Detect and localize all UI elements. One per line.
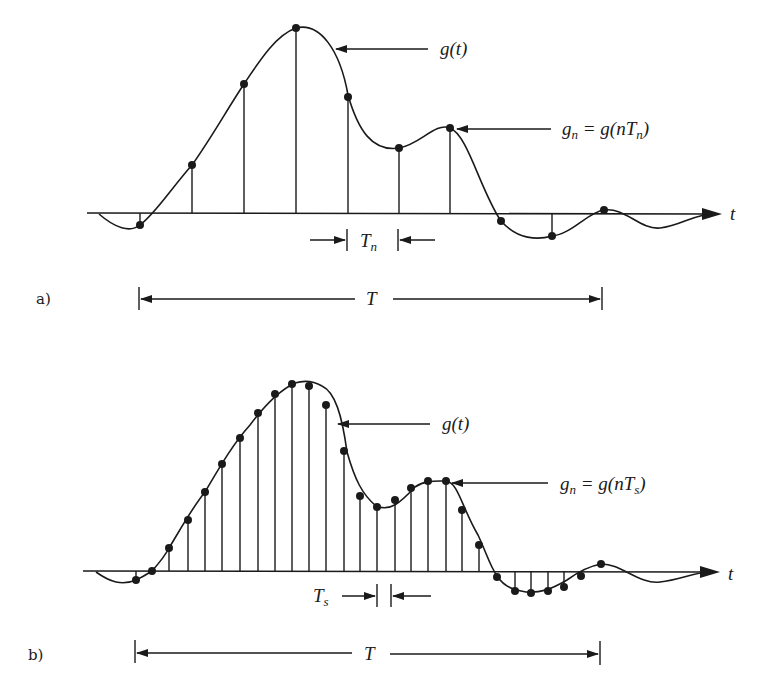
panel-a: t g(t) [36,24,736,310]
curve-label: g(t) [442,413,469,435]
sample-stems [136,384,564,593]
axis-label-t: t [728,563,734,584]
sample-label: gn = g(nTs) [560,473,646,497]
sampling-diagram: t g(t) [0,0,763,692]
sampling-interval-marker: Tn [310,229,435,254]
svg-text:T: T [364,643,376,664]
sample-dots [132,380,605,597]
duration-marker: T [139,287,602,310]
sample-stems [140,28,552,236]
svg-text:Tn: Tn [360,230,377,254]
sample-dots [136,24,608,240]
duration-marker: T [135,640,600,665]
time-axis [87,213,712,214]
panel-label-b: b) [28,646,43,664]
panel-label-a: a) [36,290,51,308]
axis-label-t: t [730,203,736,224]
svg-text:Ts: Ts [313,585,329,609]
panel-b: t [28,380,734,665]
curve-label: g(t) [440,38,467,60]
sampling-interval-marker: Ts [313,584,431,609]
time-axis [83,571,710,572]
svg-text:T: T [366,288,378,309]
sample-label: gn = g(nTn) [562,118,649,142]
